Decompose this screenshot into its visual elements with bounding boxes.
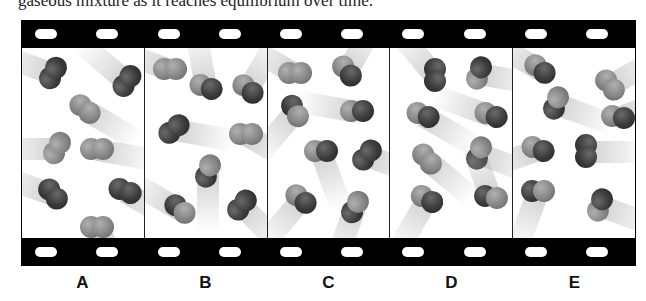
sprocket-hole	[96, 247, 118, 257]
sprocket-hole	[525, 247, 547, 257]
diatomic-molecule	[338, 196, 372, 220]
diatomic-molecule	[539, 92, 573, 116]
diatomic-molecule	[229, 123, 263, 147]
diatomic-molecule	[110, 70, 144, 94]
sprocket-hole	[525, 29, 547, 39]
sprocket-hole	[402, 29, 424, 39]
diatomic-molecule	[284, 188, 318, 212]
diatomic-molecule	[601, 106, 635, 130]
diatomic-molecule	[36, 62, 70, 86]
diatomic-molecule	[340, 100, 374, 124]
atom-dark	[575, 146, 597, 168]
atom-dark	[316, 140, 338, 162]
sprocket-hole	[280, 247, 302, 257]
diatomic-molecule	[191, 160, 225, 184]
sprocket-hole	[586, 29, 608, 39]
diatomic-molecule	[350, 144, 384, 168]
frame-label-b: B	[144, 273, 267, 293]
diatomic-molecule	[569, 140, 603, 164]
diatomic-molecule	[304, 140, 338, 164]
film-top-sprocket-band	[21, 20, 636, 48]
atom-light	[92, 138, 114, 160]
diatomic-molecule	[462, 62, 496, 86]
sprocket-hole	[219, 247, 241, 257]
diatomic-molecule	[410, 148, 444, 172]
frame-label-a: A	[21, 273, 144, 293]
diatomic-molecule	[157, 118, 191, 142]
diatomic-molecule	[278, 62, 312, 86]
diatomic-molecule	[68, 98, 102, 122]
diatomic-molecule	[474, 104, 508, 128]
sprocket-hole	[35, 29, 57, 39]
atom-light	[165, 58, 187, 80]
frame-d	[390, 48, 512, 238]
atom-light	[241, 123, 263, 145]
diatomic-molecule	[80, 138, 114, 162]
frame-e	[513, 48, 635, 238]
diatomic-molecule	[36, 183, 70, 207]
atom-dark	[352, 100, 374, 122]
sprocket-hole	[280, 29, 302, 39]
sprocket-hole	[35, 247, 57, 257]
atom-light	[485, 185, 510, 210]
diatomic-molecule	[521, 138, 555, 162]
frame-label-e: E	[513, 273, 636, 293]
frame-b	[145, 48, 267, 238]
diatomic-molecule	[80, 216, 114, 238]
diatomic-molecule	[593, 74, 627, 98]
film-bottom-sprocket-band	[21, 238, 636, 266]
diatomic-molecule	[189, 76, 223, 100]
film-strip	[21, 20, 636, 266]
diatomic-molecule	[40, 137, 74, 161]
atom-light	[533, 180, 555, 202]
diatomic-molecule	[153, 58, 187, 82]
frame-labels: A B C D E	[21, 273, 636, 293]
sprocket-hole	[158, 29, 180, 39]
diatomic-molecule	[163, 198, 197, 222]
diatomic-molecule	[474, 186, 508, 210]
sprocket-hole	[402, 247, 424, 257]
diatomic-molecule	[521, 180, 555, 204]
diatomic-molecule	[583, 194, 617, 218]
diatomic-molecule	[418, 64, 452, 88]
atom-light	[290, 62, 312, 84]
diatomic-molecule	[225, 194, 259, 218]
sprocket-hole	[219, 29, 241, 39]
diatomic-molecule	[231, 78, 265, 102]
sprocket-hole	[586, 247, 608, 257]
diatomic-molecule	[330, 60, 364, 84]
sprocket-hole	[158, 247, 180, 257]
diatomic-molecule	[523, 58, 557, 82]
atom-light	[92, 216, 114, 238]
diatomic-molecule	[108, 180, 142, 204]
sprocket-hole	[464, 29, 486, 39]
sprocket-hole	[96, 29, 118, 39]
frame-c	[268, 48, 390, 238]
sprocket-hole	[464, 247, 486, 257]
caption-text: gaseous mixture as it reaches equilibriu…	[18, 0, 373, 11]
diatomic-molecule	[410, 188, 444, 212]
frame-label-c: C	[267, 273, 390, 293]
film-frames	[22, 48, 635, 238]
frame-label-d: D	[390, 273, 513, 293]
sprocket-hole	[341, 29, 363, 39]
frame-a	[22, 48, 144, 238]
sprocket-hole	[341, 247, 363, 257]
